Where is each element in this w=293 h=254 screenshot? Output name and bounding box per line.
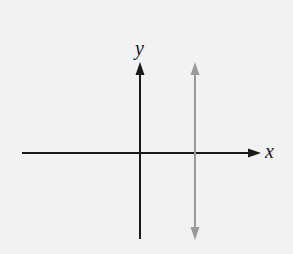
x-axis-arrowhead-icon	[248, 149, 261, 158]
coordinate-plane	[0, 0, 293, 254]
diagram-canvas: y x	[0, 0, 293, 254]
x-axis	[22, 149, 261, 158]
x-axis-label: x	[265, 141, 274, 161]
vertical-line	[191, 62, 200, 240]
vertical-line-top-arrowhead-icon	[191, 62, 200, 75]
y-axis-arrowhead-icon	[136, 62, 145, 75]
y-axis-label: y	[135, 38, 144, 58]
vertical-line-bottom-arrowhead-icon	[191, 227, 200, 240]
y-axis	[136, 62, 145, 239]
